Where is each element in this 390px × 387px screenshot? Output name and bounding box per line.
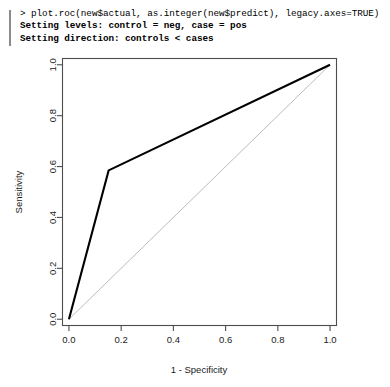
console-left-rule (9, 10, 11, 46)
y-tick-label: 0.2 (47, 262, 58, 275)
x-tick-label: 0.4 (167, 334, 180, 345)
x-axis-title: 1 - Specificity (171, 364, 228, 375)
x-tick-label: 0.6 (219, 334, 232, 345)
y-tick-label: 0.8 (47, 109, 58, 122)
console-line-direction: Setting direction: controls < cases (20, 33, 390, 45)
y-tick-label: 0.4 (47, 211, 58, 224)
x-tick-label: 0.8 (271, 334, 284, 345)
chance-diagonal-line (69, 65, 330, 319)
y-axis-title: Sensitivity (13, 170, 24, 213)
y-tick-label: 0.0 (47, 313, 58, 326)
x-tick-label: 0.2 (115, 334, 128, 345)
r-console-output: > plot.roc(new$actual, as.integer(new$pr… (0, 8, 390, 48)
console-line-command: > plot.roc(new$actual, as.integer(new$pr… (20, 8, 390, 20)
roc-plot: 0.00.20.40.60.81.0 0.00.20.40.60.81.0 Se… (0, 48, 390, 387)
y-tick-label: 0.6 (47, 160, 58, 173)
y-axis-ticks: 0.00.20.40.60.81.0 (47, 58, 63, 326)
console-line-list: > plot.roc(new$actual, as.integer(new$pr… (20, 8, 390, 45)
x-axis-ticks: 0.00.20.40.60.81.0 (62, 326, 336, 345)
y-tick-label: 1.0 (47, 58, 58, 71)
roc-plot-svg: 0.00.20.40.60.81.0 0.00.20.40.60.81.0 Se… (0, 48, 390, 387)
console-line-levels: Setting levels: control = neg, case = po… (20, 20, 390, 32)
x-tick-label: 0.0 (62, 334, 75, 345)
x-tick-label: 1.0 (323, 334, 336, 345)
